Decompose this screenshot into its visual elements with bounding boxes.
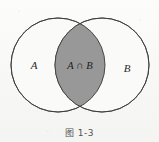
venn-diagram: A A ∩ B B	[0, 0, 159, 142]
figure-caption: 图 1-3	[0, 128, 159, 139]
figure-caption-text: 图 1-3	[65, 128, 94, 139]
set-a-label: A	[30, 59, 38, 71]
set-b-label: B	[124, 62, 131, 74]
intersection-label: A ∩ B	[66, 60, 93, 71]
figure-page: A A ∩ B B 图 1-3	[0, 0, 159, 142]
